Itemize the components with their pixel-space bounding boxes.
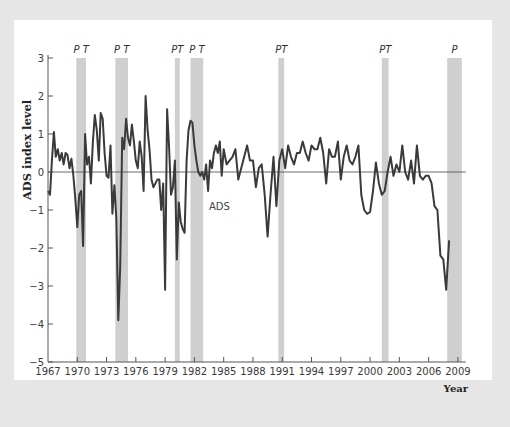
x-tick-label: 2000 (357, 366, 382, 377)
y-tick-label: 1 (38, 129, 44, 140)
y-tick-label: −1 (29, 205, 44, 216)
y-tick-label: 2 (38, 91, 44, 102)
y-tick-label: −2 (29, 243, 44, 254)
y-tick-label: −3 (29, 281, 44, 292)
x-tick-label: 2006 (416, 366, 441, 377)
x-tick-label: 1973 (94, 366, 119, 377)
axes: 3210−1−2−3−4−519671970197319761979198219… (29, 53, 470, 377)
ads-line-chart: P TP TPTP TPTPTP 3210−1−2−3−4−5196719701… (0, 0, 510, 427)
peak-trough-label: P T (74, 44, 90, 55)
x-tick-label: 1970 (65, 366, 90, 377)
x-tick-label: 1976 (123, 366, 148, 377)
recession-bar (447, 58, 462, 362)
x-tick-label: 1997 (328, 366, 353, 377)
peak-trough-labels: P TP TPTP TPTPTP (74, 44, 459, 55)
peak-trough-label: PT (275, 44, 288, 55)
x-tick-label: 2009 (445, 366, 470, 377)
recession-bar (278, 58, 284, 362)
peak-trough-label: P T (189, 44, 205, 55)
series-label-ads: ADS (209, 201, 230, 212)
recession-bar (190, 58, 203, 362)
y-tick-label: −4 (29, 319, 44, 330)
peak-trough-label: PT (171, 44, 184, 55)
x-tick-label: 1994 (299, 366, 324, 377)
x-tick-label: 1991 (270, 366, 295, 377)
x-tick-label: 2003 (387, 366, 412, 377)
y-tick-label: 0 (38, 167, 44, 178)
peak-trough-label: PT (379, 44, 392, 55)
y-tick-label: 3 (38, 53, 44, 64)
recession-bar (382, 58, 389, 362)
x-tick-label: 1988 (240, 366, 265, 377)
x-tick-label: 1982 (182, 366, 207, 377)
peak-trough-label: P (451, 44, 458, 55)
x-tick-label: 1979 (152, 366, 177, 377)
x-tick-label: 1967 (35, 366, 60, 377)
ads-series-line (48, 96, 449, 320)
x-tick-label: 1985 (211, 366, 236, 377)
y-axis-label: ADS index level (20, 99, 34, 201)
peak-trough-label: P T (114, 44, 130, 55)
x-axis-label: Year (443, 383, 469, 394)
